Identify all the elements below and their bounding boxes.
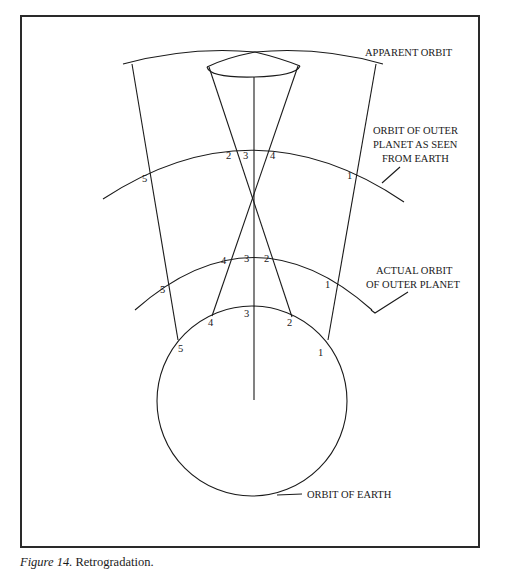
seen-pos-3: 3 (243, 150, 248, 161)
seen-pos-2: 2 (226, 150, 231, 161)
label-orbit-seen-3: FROM EARTH (382, 153, 449, 164)
apparent-orbit-left-arc (123, 51, 300, 67)
retrogradation-diagram: APPARENT ORBIT ORBIT OF OUTER PLANET AS … (0, 0, 505, 575)
sight-line-4 (212, 66, 298, 316)
earth-pos-4: 4 (208, 317, 214, 328)
label-apparent-orbit: APPARENT ORBIT (365, 47, 453, 58)
actual-pos-5: 5 (160, 284, 165, 295)
leader-actual (371, 292, 408, 313)
earth-orbit-circle (157, 306, 347, 496)
earth-pos-2: 2 (287, 317, 292, 328)
retrograde-loop (207, 66, 300, 77)
sight-line-5 (132, 64, 178, 340)
sight-line-2 (209, 67, 292, 317)
label-orbit-earth: ORBIT OF EARTH (307, 489, 392, 500)
leader-seen (382, 167, 400, 183)
figure-caption-label: Figure 14. (20, 555, 72, 569)
label-actual-orbit-2: OF OUTER PLANET (366, 279, 461, 290)
actual-pos-1: 1 (325, 279, 330, 290)
seen-pos-5: 5 (142, 173, 147, 184)
label-orbit-seen-2: PLANET AS SEEN (373, 139, 458, 150)
figure-caption-text: Retrogradation. (72, 555, 153, 569)
sight-line-1 (328, 64, 376, 340)
earth-pos-1: 1 (318, 347, 323, 358)
leader-earth (277, 494, 302, 495)
actual-pos-4: 4 (221, 255, 227, 266)
label-orbit-seen-1: ORBIT OF OUTER (373, 125, 458, 136)
actual-pos-3: 3 (244, 253, 249, 264)
label-actual-orbit-1: ACTUAL ORBIT (376, 265, 453, 276)
seen-pos-1: 1 (347, 170, 352, 181)
actual-pos-2: 2 (264, 253, 269, 264)
earth-pos-5: 5 (178, 343, 183, 354)
earth-pos-3: 3 (244, 308, 249, 319)
seen-pos-4: 4 (270, 150, 276, 161)
figure-caption: Figure 14. Retrogradation. (20, 555, 154, 570)
